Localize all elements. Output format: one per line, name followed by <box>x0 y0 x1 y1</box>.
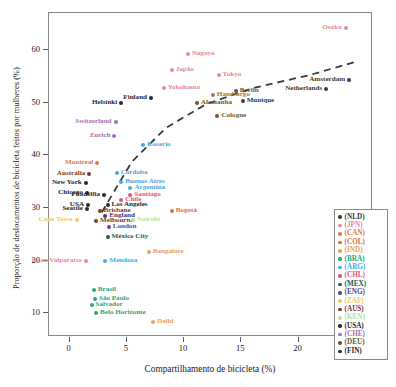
legend-dot-icon <box>338 333 342 337</box>
data-point[interactable] <box>234 89 238 93</box>
legend-dot-icon <box>338 232 342 236</box>
data-point[interactable] <box>112 134 116 138</box>
legend-dot-icon <box>338 266 342 270</box>
legend-item-label: (FIN) <box>345 348 362 355</box>
scatter-chart-figure: 0510152025102030405060 OsakaNagoyaTokyoJ… <box>0 0 396 387</box>
data-point[interactable] <box>344 26 348 30</box>
data-point[interactable] <box>95 161 99 165</box>
data-point-label: Osaka <box>322 24 341 31</box>
legend-dot-icon <box>338 299 342 303</box>
data-point-label: Córdoba <box>121 169 148 176</box>
data-point[interactable] <box>119 180 123 184</box>
legend-item[interactable]: (CAN) <box>338 230 385 238</box>
data-point[interactable] <box>94 219 98 223</box>
data-point[interactable] <box>215 114 219 118</box>
data-point-label: Cologne <box>221 112 246 119</box>
legend-item[interactable]: (FIN) <box>338 347 385 355</box>
data-point[interactable] <box>119 101 123 105</box>
legend-dot-icon <box>338 350 342 354</box>
x-axis-label: Compartilhamento de bicicleta (%) <box>48 364 372 374</box>
data-point[interactable] <box>162 86 166 90</box>
legend-dot-icon <box>338 341 342 345</box>
legend-dot-icon <box>338 241 342 245</box>
data-point[interactable] <box>195 101 199 105</box>
data-point[interactable] <box>106 235 110 239</box>
data-point-label: Netherlands <box>285 86 322 93</box>
data-point-label: New York <box>52 179 82 186</box>
data-point-label: Nairobi <box>137 217 160 224</box>
data-point-label: Alemanha <box>201 100 232 107</box>
legend-item[interactable]: (ENG) <box>338 289 385 297</box>
data-point-label: Switzerland <box>75 118 111 125</box>
legend-dot-icon <box>338 249 342 253</box>
x-tick-label: 15 <box>236 343 245 353</box>
data-point-label: Yokohama <box>168 85 200 92</box>
data-point[interactable] <box>92 288 96 292</box>
plot-area <box>48 12 372 336</box>
data-point[interactable] <box>90 303 94 307</box>
legend-item[interactable]: (IND) <box>338 247 385 255</box>
data-point[interactable] <box>170 68 174 72</box>
data-point-label: Gran Valparaíso <box>32 258 82 265</box>
data-point[interactable] <box>141 143 145 147</box>
data-point-label: Berlin <box>240 87 259 94</box>
data-point[interactable] <box>347 78 351 82</box>
data-point[interactable] <box>114 120 118 124</box>
legend-dot-icon <box>338 316 342 320</box>
data-point[interactable] <box>85 207 89 211</box>
data-point[interactable] <box>151 320 155 324</box>
data-point[interactable] <box>102 193 106 197</box>
data-point[interactable] <box>241 99 245 103</box>
legend-dot-icon <box>338 308 342 312</box>
legend-item[interactable]: (CHL) <box>338 272 385 280</box>
data-point[interactable] <box>149 96 153 100</box>
data-point[interactable] <box>87 172 91 176</box>
data-point[interactable] <box>128 186 132 190</box>
data-point-label: Mendoza <box>109 258 137 265</box>
data-point[interactable] <box>84 181 88 185</box>
x-tick-label: 20 <box>293 343 302 353</box>
data-point[interactable] <box>84 259 88 263</box>
data-point[interactable] <box>75 218 79 222</box>
legend-dot-icon <box>338 324 342 328</box>
y-tick-mark <box>43 49 48 50</box>
legend-dot-icon <box>338 274 342 278</box>
data-point[interactable] <box>115 171 119 175</box>
data-point-label: Belo Horizonte <box>100 309 146 316</box>
legend-item-label: (ZAF) <box>345 298 364 305</box>
data-point-label: Montreal <box>65 160 93 167</box>
data-point[interactable] <box>94 311 98 315</box>
data-point[interactable] <box>103 259 107 263</box>
legend-item-label: (BRA) <box>345 256 365 263</box>
y-tick-mark <box>43 154 48 155</box>
y-tick-mark <box>43 102 48 103</box>
legend-item-label: (AUS) <box>345 306 364 313</box>
data-point[interactable] <box>98 209 102 213</box>
data-point-label: Brasil <box>98 287 116 294</box>
legend-dot-icon <box>338 283 342 287</box>
data-point[interactable] <box>170 209 174 213</box>
x-tick-mark <box>183 337 184 342</box>
legend-item-label: (CHL) <box>345 272 365 279</box>
data-point-label: Amsterdam <box>309 77 345 84</box>
x-tick-label: 0 <box>66 343 70 353</box>
data-point[interactable] <box>324 87 328 91</box>
data-point-label: Munique <box>247 97 275 104</box>
data-point[interactable] <box>186 52 190 56</box>
legend-item[interactable]: (DEU) <box>338 339 385 347</box>
data-point-label: Seattle <box>62 205 83 212</box>
legend-item[interactable]: (KEN) <box>338 314 385 322</box>
data-point[interactable] <box>147 250 151 254</box>
legend-dot-icon <box>338 224 342 228</box>
x-tick-mark <box>126 337 127 342</box>
y-tick-mark <box>43 207 48 208</box>
legend-item-label: (MEX) <box>345 281 367 288</box>
data-point-label: Nagoya <box>192 51 215 58</box>
legend-item-label: (IND) <box>345 247 363 254</box>
data-point-label: Japão <box>176 66 194 73</box>
data-point[interactable] <box>217 73 221 77</box>
data-point[interactable] <box>107 225 111 229</box>
legend-item-label: (DEU) <box>345 339 365 346</box>
legend-item-label: (COL) <box>345 239 365 246</box>
data-point[interactable] <box>211 93 215 97</box>
